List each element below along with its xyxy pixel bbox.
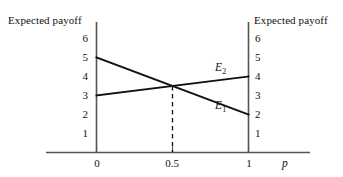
right-axis-title: Expected payoff bbox=[254, 15, 328, 26]
left-axis-title: Expected payoff bbox=[8, 15, 82, 26]
x-axis-variable-label: p bbox=[282, 158, 288, 170]
left-y-tick-6: 6 bbox=[74, 33, 88, 44]
right-y-tick-2: 2 bbox=[255, 109, 261, 120]
series-label-e1-base: E bbox=[215, 99, 222, 111]
left-y-tick-2: 2 bbox=[74, 109, 88, 120]
left-y-tick-4: 4 bbox=[74, 71, 88, 82]
right-y-tick-5: 5 bbox=[255, 52, 261, 63]
series-label-e1-sub: 1 bbox=[222, 105, 226, 114]
left-y-tick-3: 3 bbox=[74, 90, 88, 101]
right-y-tick-1: 1 bbox=[255, 128, 261, 139]
series-label-e2-sub: 2 bbox=[222, 67, 226, 76]
right-y-tick-6: 6 bbox=[255, 33, 261, 44]
right-y-tick-4: 4 bbox=[255, 71, 261, 82]
series-label-e1: E1 bbox=[215, 100, 226, 112]
series-label-e2: E2 bbox=[215, 62, 226, 74]
plot-canvas bbox=[0, 0, 343, 177]
right-y-tick-3: 3 bbox=[255, 90, 261, 101]
chart-figure: Expected payoff Expected payoff 6 5 4 3 … bbox=[0, 0, 343, 177]
x-tick-label-0: 0 bbox=[86, 158, 108, 169]
series-line-e2 bbox=[97, 77, 249, 96]
series-label-e2-base: E bbox=[215, 61, 222, 73]
x-tick-label-1: 1 bbox=[238, 158, 260, 169]
x-tick-label-05: 0.5 bbox=[161, 158, 183, 169]
left-y-tick-1: 1 bbox=[74, 128, 88, 139]
left-y-tick-5: 5 bbox=[74, 52, 88, 63]
